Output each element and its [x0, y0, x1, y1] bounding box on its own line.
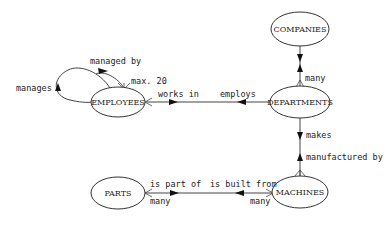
down-arrow-icon — [297, 54, 303, 62]
is-built-from-arrow-icon — [235, 190, 244, 196]
entity-machines[interactable]: MACHINES — [272, 176, 328, 208]
makes-label: makes — [306, 130, 332, 140]
entity-departments[interactable]: DEPARTMENTS — [267, 86, 333, 118]
manufactured-by-label: manufactured by — [306, 152, 383, 162]
entity-label: EMPLOYEES — [91, 98, 145, 107]
entity-companies[interactable]: COMPANIES — [271, 12, 329, 46]
max-20-label: max. 20 — [131, 76, 167, 86]
employs-label: employs — [220, 89, 256, 99]
makes-arrow-icon — [297, 132, 303, 140]
up-arrow-icon — [297, 64, 303, 72]
works-in-label: works in — [158, 89, 199, 99]
entity-parts[interactable]: PARTS — [91, 177, 145, 209]
many-parts-label: many — [150, 196, 170, 206]
entity-label: COMPANIES — [274, 25, 327, 34]
entity-employees[interactable]: EMPLOYEES — [91, 87, 145, 117]
er-diagram: COMPANIES EMPLOYEES DEPARTMENTS PARTS MA… — [0, 0, 390, 227]
managed-by-label: managed by — [90, 56, 141, 66]
is-part-of-arrow-icon — [170, 190, 179, 196]
is-built-from-label: is built from — [210, 179, 277, 189]
works-in-arrow-icon — [169, 99, 178, 105]
employs-arrow-icon — [237, 99, 246, 105]
manages-label: manages — [16, 83, 52, 93]
many-label: many — [305, 73, 325, 83]
is-part-of-label: is part of — [150, 179, 201, 189]
entity-label: MACHINES — [276, 188, 325, 197]
many-machines-label: many — [250, 196, 270, 206]
manufactured-by-arrow-icon — [297, 153, 303, 161]
entity-label: PARTS — [104, 189, 131, 198]
entity-label: DEPARTMENTS — [267, 98, 333, 107]
